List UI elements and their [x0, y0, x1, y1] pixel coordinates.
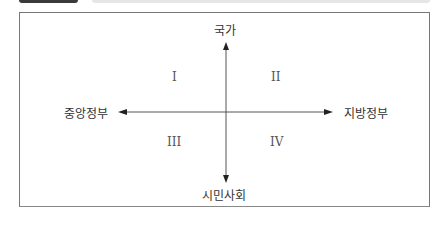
arrow-down-icon: [223, 175, 229, 183]
axis-label-right: 지방정부: [344, 104, 388, 121]
quadrant-label-1: I: [172, 70, 177, 84]
arrow-right-icon: [324, 109, 333, 115]
quadrant-label-4: IV: [270, 135, 283, 149]
arrow-up-icon: [223, 42, 229, 50]
axis-label-left: 중앙정부: [64, 104, 108, 121]
axis-label-bottom: 시민사회: [202, 186, 246, 203]
quadrant-label-2: II: [271, 70, 280, 84]
arrow-left-icon: [118, 109, 127, 115]
axis-label-top: 국가: [214, 21, 236, 38]
quadrant-label-3: III: [167, 135, 181, 149]
